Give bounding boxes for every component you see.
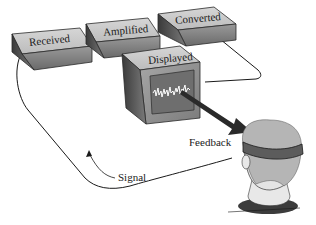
ear	[242, 155, 250, 169]
signal-label: Signal	[118, 171, 146, 183]
signal-arrowhead	[86, 150, 92, 157]
person-head	[228, 120, 303, 214]
signal-arrow	[90, 155, 115, 178]
feedback-label: Feedback	[189, 136, 231, 148]
biofeedback-diagram: Received Amplified Converted Displayed F…	[0, 0, 316, 225]
